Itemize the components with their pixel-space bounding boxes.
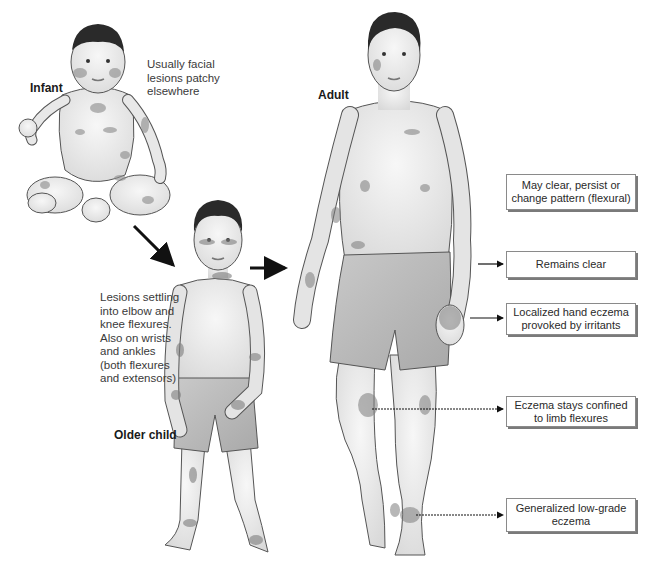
adult-label: Adult — [318, 88, 349, 102]
older-child-note: Lesions settling into elbow and knee fle… — [100, 291, 179, 386]
older-child-figure — [165, 200, 268, 552]
callout-face: May clear, persist or change pattern (fl… — [506, 174, 636, 210]
progression-arrow-1 — [134, 226, 173, 265]
callout-limbs: Eczema stays confined to limb flexures — [506, 396, 636, 427]
eczema-illustration — [0, 0, 653, 573]
callout-ankles: Generalized low-grade eczema — [506, 498, 636, 532]
callout-hands: Localized hand eczema provoked by irrita… — [506, 303, 636, 335]
infant-label: Infant — [30, 81, 63, 95]
infant-figure — [19, 24, 170, 222]
infant-note: Usually facial lesions patchy elsewhere — [147, 58, 220, 99]
older-child-label: Older child — [114, 428, 177, 442]
callout-trunk: Remains clear — [506, 251, 636, 278]
